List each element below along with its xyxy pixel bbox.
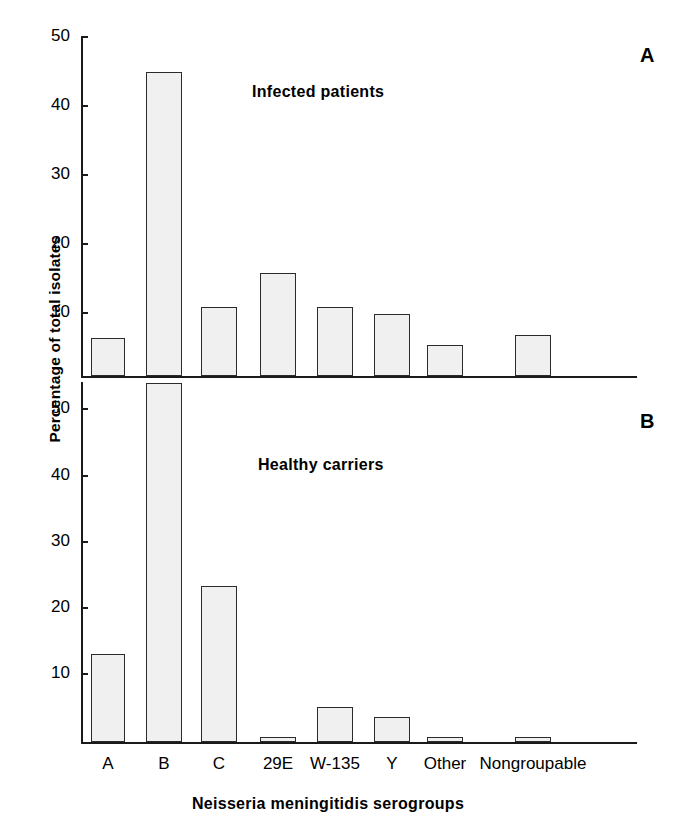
x-axis-title: Neisseria meningitidis serogroups	[128, 795, 528, 813]
panel-b: B Healthy carriers 50 40 30 20 10 ABC29E…	[0, 380, 684, 760]
panel-a-bar-y	[374, 314, 410, 376]
figure-canvas: Percentage of total isolates A Infected …	[0, 0, 684, 829]
panel-a: A Infected patients 50 40 30 20 10	[0, 0, 684, 380]
x-tick-label-nongroupable: Nongroupable	[453, 755, 613, 772]
panel-a-bar-b	[146, 72, 182, 376]
panel-a-bar-nongroupable	[515, 335, 551, 376]
panel-a-bar-c	[201, 307, 237, 376]
panel-a-bar-29e	[260, 273, 296, 377]
x-tick-labels: ABC29EW-135YOtherNongroupable	[0, 380, 684, 760]
panel-a-bar-w-135	[317, 307, 353, 376]
panel-a-bar-a	[91, 338, 125, 376]
panel-a-bar-other	[427, 345, 463, 376]
panel-a-bars	[0, 0, 684, 380]
